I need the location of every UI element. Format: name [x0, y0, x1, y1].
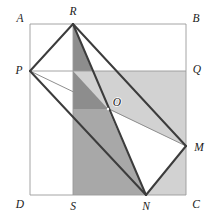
label-M: M — [193, 141, 205, 153]
label-N: N — [141, 200, 151, 212]
label-R: R — [68, 5, 76, 17]
label-Q: Q — [193, 63, 202, 75]
label-A: A — [15, 12, 24, 24]
label-D: D — [15, 198, 25, 210]
label-P: P — [14, 64, 22, 76]
point-o-dot — [107, 108, 109, 110]
label-C: C — [192, 198, 200, 210]
label-O: O — [113, 96, 122, 108]
geometry-figure: A B C D P Q R S M N O — [0, 0, 217, 219]
figure-canvas: A B C D P Q R S M N O — [0, 0, 217, 219]
label-B: B — [192, 12, 199, 24]
region-below-pq-left-rs — [30, 71, 73, 195]
label-S: S — [70, 200, 76, 212]
